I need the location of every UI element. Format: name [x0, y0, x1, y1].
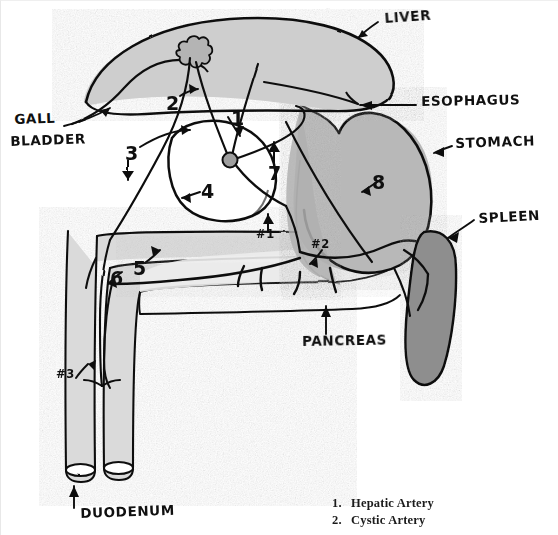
- legend: 1. Hepatic Artery 2. Cystic Artery: [332, 496, 434, 530]
- organ-label-stomach: STOMACH: [455, 133, 535, 150]
- diagram-page: LIVER ESOPHAGUS STOMACH SPLEEN GALL BLAD…: [0, 0, 558, 535]
- organ-label-liver: LIVER: [384, 8, 432, 26]
- organ-label-gall-bladder-line1: GALL: [14, 111, 56, 127]
- legend-item-2-label: Cystic Artery: [351, 513, 425, 528]
- number-label-8: 8: [372, 172, 386, 192]
- organ-label-duodenum: DUODENUM: [80, 503, 175, 521]
- legend-item-2: 2. Cystic Artery: [332, 513, 434, 528]
- legend-item-1: 1. Hepatic Artery: [332, 496, 434, 511]
- number-label-2: 2: [166, 93, 180, 113]
- number-label-6: 6: [110, 268, 124, 288]
- hash-label-1: #1: [256, 228, 275, 240]
- legend-item-1-number: 1.: [332, 496, 351, 511]
- organ-label-pancreas: PANCREAS: [302, 333, 387, 349]
- legend-item-1-label: Hepatic Artery: [351, 496, 434, 511]
- hash-label-2: #2: [311, 238, 330, 250]
- organ-label-esophagus: ESOPHAGUS: [421, 92, 520, 108]
- number-label-4: 4: [201, 181, 215, 201]
- number-label-1: 1: [231, 108, 245, 128]
- number-label-3: 3: [125, 143, 139, 163]
- hilum-node: [223, 153, 238, 168]
- number-label-7: 7: [268, 163, 282, 183]
- anatomy-drawing: [0, 0, 558, 535]
- legend-item-2-number: 2.: [332, 513, 351, 528]
- gallbladder-shape: [168, 121, 275, 221]
- number-label-5: 5: [133, 258, 147, 278]
- organ-label-spleen: SPLEEN: [478, 208, 540, 225]
- organ-label-gall-bladder-line2: BLADDER: [10, 131, 86, 148]
- hash-label-3: #3: [56, 368, 75, 380]
